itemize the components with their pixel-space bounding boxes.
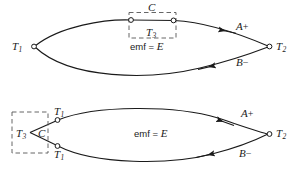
top-interposed-metal-wire xyxy=(131,20,174,21)
bottom-label-branch-A: A+ xyxy=(241,108,254,119)
top-node-C-left xyxy=(129,18,134,23)
top-label-C: C xyxy=(148,2,155,13)
top-upper-wire-left-segment xyxy=(35,20,131,46)
bottom-lower-current-arrow xyxy=(196,154,211,157)
top-node-T2 xyxy=(267,44,272,49)
top-label-T1: T1 xyxy=(12,41,22,52)
bottom-label-T1-lower: T1 xyxy=(54,149,64,160)
top-label-T3: T3 xyxy=(146,27,156,38)
bottom-label-T1-upper: T1 xyxy=(54,106,64,117)
bottom-label-branch-B: B− xyxy=(239,148,252,159)
figure-container: T1 T2 C T3 emf = E A+ B− T3 C T1 T1 T2 e… xyxy=(0,0,303,172)
top-branch-A-sign: + xyxy=(243,21,249,32)
top-node-T1 xyxy=(32,44,37,49)
top-emf-symbol: E xyxy=(157,40,164,52)
bottom-emf-label: emf = E xyxy=(134,128,167,139)
top-label-T2: T2 xyxy=(276,41,286,52)
top-emf-label: emf = E xyxy=(130,41,163,52)
bottom-emf-symbol: E xyxy=(161,127,168,139)
bottom-label-T3: T3 xyxy=(16,128,26,139)
bottom-branch-B-sign: − xyxy=(246,148,252,159)
top-label-branch-A: A+ xyxy=(236,21,249,32)
top-branch-B-sign: − xyxy=(243,57,249,68)
top-node-C-right xyxy=(171,18,176,23)
top-label-branch-B: B− xyxy=(236,57,249,68)
top-upper-current-arrow xyxy=(222,30,236,33)
bottom-label-C: C xyxy=(38,128,45,139)
bottom-label-T2: T2 xyxy=(276,128,286,139)
bottom-branch-A-sign: + xyxy=(248,108,254,119)
bottom-node-T2 xyxy=(267,132,272,137)
top-upper-wire-right-segment xyxy=(174,21,268,47)
